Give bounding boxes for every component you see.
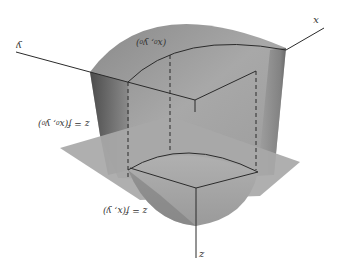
z-axis-label: z [199,250,204,260]
point-label: (x₀, y₀) [136,38,166,47]
surface-equation-label: z = f(x, y) [103,206,147,215]
plane-equation-label: z = f(x₀, y₀) [38,119,89,128]
x-axis-line [286,28,324,50]
y-axis-line [16,52,90,72]
paraboloid-diagram [0,0,337,270]
x-axis-label: x [313,16,319,26]
y-axis-label: y [16,41,22,51]
